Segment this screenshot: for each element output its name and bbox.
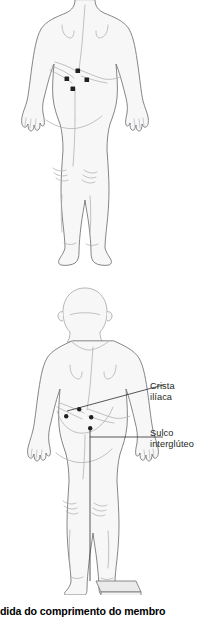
marker-gluteal-cleft	[71, 87, 76, 92]
marker-iliac-crest-left	[65, 77, 70, 82]
lower-body-silhouette	[28, 341, 159, 595]
figure-caption: dida do comprimento do membro	[0, 605, 202, 617]
upper-body-outline	[22, 0, 149, 265]
block-front-face	[101, 592, 141, 595]
ear-right	[107, 312, 112, 321]
marker-iliac-crest-center	[76, 69, 81, 74]
marker-iliac-crest-left	[64, 414, 68, 418]
lower-body-outline	[28, 341, 159, 595]
elevation-block	[96, 581, 143, 595]
upper-figure-illustration	[0, 0, 202, 290]
anatomy-figure: Crista ilíaca Sulco interglúteo dida do …	[0, 0, 202, 625]
label-crista-iliaca: Crista ilíaca	[150, 381, 175, 402]
block-top-face	[96, 581, 141, 592]
head-outline	[63, 288, 107, 342]
marker-gluteal-cleft	[88, 426, 92, 430]
marker-iliac-crest-center	[77, 407, 81, 411]
upper-body-silhouette	[22, 0, 149, 265]
label-sulco-interglúteo: Sulco interglúteo	[150, 428, 194, 449]
marker-iliac-crest-right	[89, 415, 93, 419]
ear-left	[58, 312, 63, 321]
lower-figure-head	[58, 288, 112, 342]
upper-figure-panel	[0, 0, 202, 290]
marker-iliac-crest-right	[85, 78, 90, 83]
